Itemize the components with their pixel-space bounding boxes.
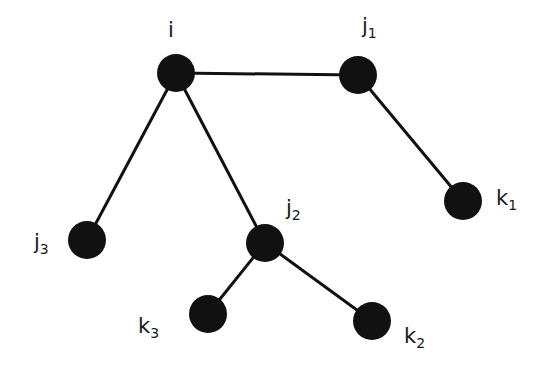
node-label-j3: j3 [34,232,49,253]
node-label-subscript: 2 [292,207,301,223]
node-label-base: k [404,324,416,348]
node-label-subscript: 2 [416,335,425,351]
node-k3 [189,295,227,333]
node-j2 [246,224,284,262]
edge-j1-k1 [358,75,463,201]
node-label-subscript: 1 [368,25,377,41]
node-label-k2: k2 [404,326,425,347]
node-j1 [339,56,377,94]
node-label-j2: j2 [286,198,301,219]
node-k2 [353,302,391,340]
edge-i-j3 [87,73,176,240]
edges-group [87,73,463,321]
node-j3 [68,221,106,259]
node-label-subscript: 3 [150,325,159,341]
node-i [157,54,195,92]
node-label-subscript: 3 [40,241,49,257]
node-label-j1: j1 [362,16,377,37]
node-label-base: k [138,314,150,338]
node-label-i: i [168,20,174,41]
node-k1 [444,182,482,220]
edge-i-j1 [176,73,358,75]
nodes-group [68,54,482,340]
node-label-k3: k3 [138,316,159,337]
edge-j2-k2 [265,243,372,321]
node-label-base: i [168,18,174,42]
node-label-base: k [496,186,508,210]
node-label-k1: k1 [496,188,517,209]
edge-i-j2 [176,73,265,243]
node-label-subscript: 1 [508,197,517,213]
tree-diagram [0,0,546,370]
